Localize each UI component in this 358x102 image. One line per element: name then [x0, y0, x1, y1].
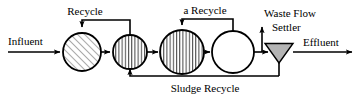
reactor-1: [63, 33, 101, 71]
label-effluent: Effluent: [303, 36, 339, 48]
flow-diagram-canvas: Influent Recycle a Recycle Waste Flow Se…: [0, 0, 358, 102]
reactor-2: [113, 35, 147, 69]
settler-clarifier: [265, 44, 293, 77]
label-waste-flow: Waste Flow: [264, 7, 316, 19]
sludge-recycle-stream: [130, 69, 279, 76]
label-recycle: Recycle: [67, 5, 103, 17]
process-flow-diagram: Influent Recycle a Recycle Waste Flow Se…: [0, 0, 358, 102]
recycle-stream: [82, 20, 130, 35]
reactor-4: [212, 31, 254, 73]
label-a-recycle: a Recycle: [183, 4, 226, 16]
reactor-3: [160, 30, 204, 74]
label-influent: Influent: [8, 35, 43, 47]
label-settler: Settler: [272, 21, 301, 33]
a-recycle-stream: [182, 19, 233, 31]
label-sludge-recycle: Sludge Recycle: [171, 82, 240, 94]
